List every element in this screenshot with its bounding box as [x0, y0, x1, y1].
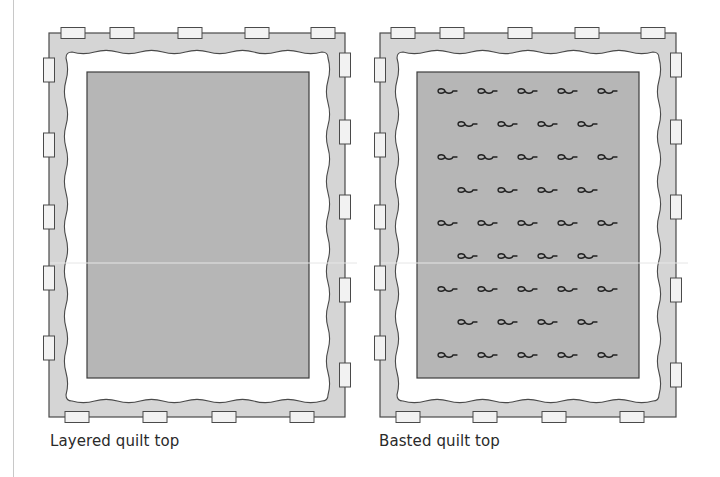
masking-tape — [110, 28, 134, 39]
quilt-top — [87, 72, 309, 378]
masking-tape — [340, 363, 351, 387]
masking-tape — [375, 133, 386, 157]
caption-layered-quilt-top: Layered quilt top — [50, 432, 179, 450]
masking-tape — [212, 412, 236, 423]
masking-tape — [44, 133, 55, 157]
masking-tape — [542, 412, 566, 423]
masking-tape — [375, 336, 386, 360]
masking-tape — [61, 28, 85, 39]
masking-tape — [508, 28, 532, 39]
masking-tape — [44, 205, 55, 229]
masking-tape — [44, 336, 55, 360]
masking-tape — [391, 28, 415, 39]
masking-tape — [671, 53, 682, 77]
basted-quilt-panel — [375, 28, 689, 423]
layered-quilt-panel — [44, 28, 358, 423]
masking-tape — [671, 278, 682, 302]
masking-tape — [311, 28, 335, 39]
masking-tape — [375, 58, 386, 82]
masking-tape — [44, 58, 55, 82]
masking-tape — [65, 412, 89, 423]
masking-tape — [245, 28, 269, 39]
masking-tape — [396, 412, 420, 423]
masking-tape — [290, 412, 314, 423]
masking-tape — [340, 53, 351, 77]
masking-tape — [178, 28, 202, 39]
masking-tape — [620, 412, 644, 423]
masking-tape — [375, 266, 386, 290]
masking-tape — [641, 28, 665, 39]
masking-tape — [440, 28, 464, 39]
masking-tape — [340, 195, 351, 219]
masking-tape — [44, 266, 55, 290]
masking-tape — [340, 120, 351, 144]
masking-tape — [671, 120, 682, 144]
caption-basted-quilt-top: Basted quilt top — [379, 432, 500, 450]
masking-tape — [671, 195, 682, 219]
masking-tape — [575, 28, 599, 39]
masking-tape — [340, 278, 351, 302]
masking-tape — [375, 205, 386, 229]
masking-tape — [473, 412, 497, 423]
masking-tape — [143, 412, 167, 423]
masking-tape — [671, 363, 682, 387]
quilt-basting-diagram — [0, 0, 720, 477]
